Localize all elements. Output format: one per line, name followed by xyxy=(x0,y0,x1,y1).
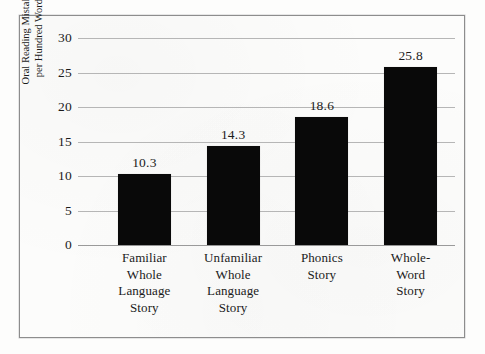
category-label-line: Whole xyxy=(189,267,278,284)
category-label-line: Unfamiliar xyxy=(189,250,278,267)
bar-value-label: 18.6 xyxy=(310,98,334,114)
category-label-line: Whole- xyxy=(366,250,455,267)
bar xyxy=(295,117,348,245)
y-axis-title-line: per Hundred Words xyxy=(32,0,45,77)
y-axis-tick-label: 0 xyxy=(32,237,72,253)
bar-value-label: 25.8 xyxy=(398,48,422,64)
x-axis-category-label: PhonicsStory xyxy=(278,250,367,283)
y-axis-tick-label: 10 xyxy=(32,168,72,184)
y-axis-tick-mark xyxy=(78,211,100,212)
plot-area xyxy=(100,38,455,245)
category-label-line: Story xyxy=(366,283,455,300)
y-axis-tick-label: 15 xyxy=(32,134,72,150)
bar xyxy=(118,174,171,245)
category-label-line: Language xyxy=(189,283,278,300)
category-label-line: Story xyxy=(189,300,278,317)
category-label-line: Story xyxy=(278,267,367,284)
y-axis-tick-mark xyxy=(78,176,100,177)
y-axis-tick-label: 5 xyxy=(32,203,72,219)
y-axis-title: Oral Reading Mistakesper Hundred Words xyxy=(15,0,49,106)
category-label-line: Whole xyxy=(100,267,189,284)
x-axis-category-label: Whole-WordStory xyxy=(366,250,455,300)
category-label-line: Word xyxy=(366,267,455,284)
x-axis-category-label: UnfamiliarWholeLanguageStory xyxy=(189,250,278,316)
y-axis-tick-mark xyxy=(78,245,100,246)
y-axis-tick-mark xyxy=(78,38,100,39)
bar xyxy=(207,146,260,245)
bar xyxy=(384,67,437,245)
category-label-line: Story xyxy=(100,300,189,317)
axis-baseline xyxy=(100,245,455,246)
figure: 051015202530 10.314.318.625.8 FamiliarWh… xyxy=(0,0,485,354)
x-axis-category-labels: FamiliarWholeLanguageStoryUnfamiliarWhol… xyxy=(100,250,455,320)
category-label-line: Familiar xyxy=(100,250,189,267)
category-label-line: Language xyxy=(100,283,189,300)
y-axis-tick-mark xyxy=(78,73,100,74)
bar-value-label: 10.3 xyxy=(132,155,156,171)
y-axis-tick-mark xyxy=(78,107,100,108)
y-axis-tick-mark xyxy=(78,142,100,143)
gridline xyxy=(100,38,455,39)
bar-value-label: 14.3 xyxy=(221,127,245,143)
category-label-line: Phonics xyxy=(278,250,367,267)
y-axis-title-line: Oral Reading Mistakes xyxy=(19,0,32,84)
x-axis-category-label: FamiliarWholeLanguageStory xyxy=(100,250,189,316)
